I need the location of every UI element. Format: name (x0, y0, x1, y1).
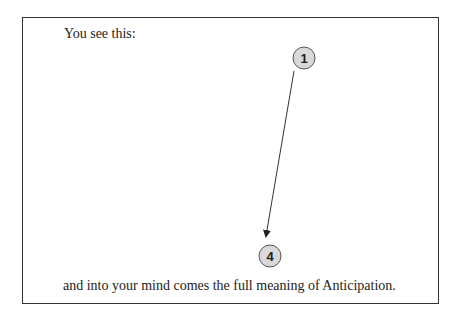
node-1: 1 (293, 47, 315, 69)
svg-text:4: 4 (266, 249, 274, 264)
node-4: 4 (259, 245, 281, 267)
svg-text:1: 1 (300, 51, 307, 66)
conclusion-text: and into your mind comes the full meanin… (63, 278, 396, 294)
arrow-1-to-4 (266, 71, 294, 236)
diagram-canvas: 1 4 (0, 0, 461, 319)
